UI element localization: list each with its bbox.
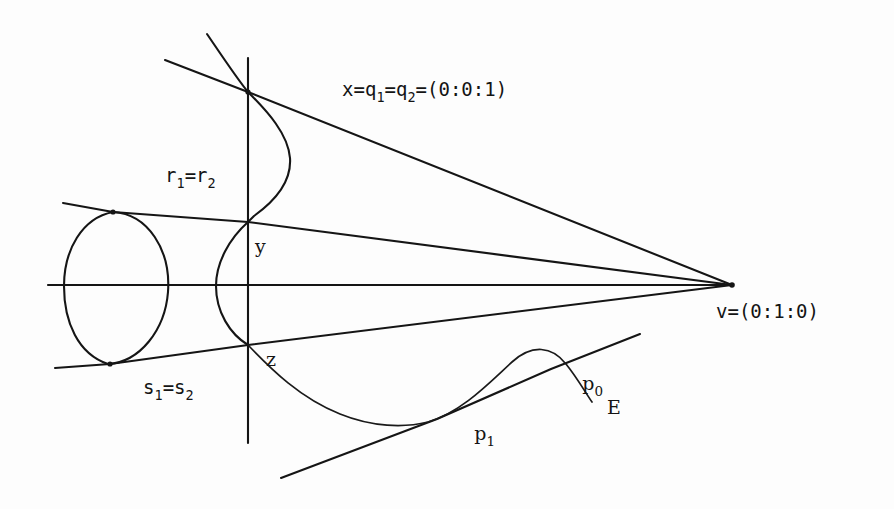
figure-canvas: x=q1=q2=(0:0:1) r1=r2 s1=s2 v=(0:1:0) y … bbox=[0, 0, 894, 509]
oval-component bbox=[64, 212, 168, 364]
curve-branch-loop bbox=[216, 222, 248, 345]
node-dot-x bbox=[245, 89, 250, 94]
line-through-s-z-to-v bbox=[55, 285, 732, 368]
node-dot-s bbox=[107, 361, 112, 366]
label-s-point: s1=s2 bbox=[63, 376, 251, 404]
node-dot-v bbox=[729, 282, 735, 288]
geometry-diagram: x=q1=q2=(0:0:1) r1=r2 s1=s2 v=(0:1:0) y … bbox=[0, 0, 894, 509]
label-x-point: x=q1=q2=(0:0:1) bbox=[262, 78, 564, 105]
label-v-point: v=(0:1:0) bbox=[716, 300, 819, 322]
label-y-point: y bbox=[254, 235, 266, 257]
label-r-point: r1=r2 bbox=[85, 164, 273, 192]
label-p1-point: p1 bbox=[432, 422, 525, 450]
node-dot-r bbox=[110, 209, 115, 214]
label-curve-E: E bbox=[607, 396, 621, 418]
label-z-point: z bbox=[266, 348, 276, 370]
